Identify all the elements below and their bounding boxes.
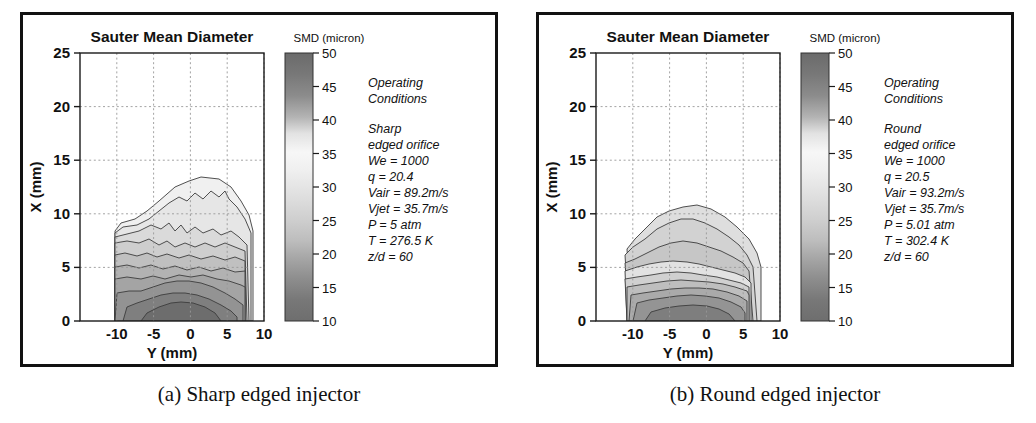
oc-line-7-a: T = 276.5 K <box>368 234 434 248</box>
colorbar-a <box>285 53 313 321</box>
oc-line-5-b: Vjet = 35.7m/s <box>884 202 964 216</box>
oc-line-8-a: z/d = 60 <box>367 250 413 264</box>
operating-conditions-a: Operating Conditions Sharp edged orifice… <box>367 76 448 264</box>
axis-ticks-b <box>590 53 596 321</box>
y-axis-label-b: X (mm) <box>543 162 560 213</box>
x-tick-labels-a: -10 -5 0 5 10 <box>106 325 272 342</box>
x-axis-label-a: Y (mm) <box>147 344 198 361</box>
oc-line-4-b: Vair = 93.2m/s <box>884 186 964 200</box>
y-axis-label-a: X (mm) <box>27 162 44 213</box>
svg-text:25: 25 <box>53 44 70 61</box>
oc-line-2-a: We = 1000 <box>368 154 429 168</box>
svg-text:10: 10 <box>53 205 70 222</box>
svg-text:10: 10 <box>256 325 273 342</box>
svg-text:15: 15 <box>53 151 70 168</box>
svg-text:10: 10 <box>772 325 789 342</box>
oc-line-1-b: edged orifice <box>884 138 956 152</box>
svg-text:50: 50 <box>322 46 336 61</box>
svg-text:20: 20 <box>569 98 586 115</box>
oc-line-1-a: edged orifice <box>368 138 440 152</box>
svg-text:-10: -10 <box>106 325 128 342</box>
panel-round-edged-injector: Sauter Mean Diameter <box>536 12 1014 367</box>
y-tick-labels-a: 0 5 10 15 20 25 <box>53 44 70 329</box>
svg-text:5: 5 <box>578 258 586 275</box>
oc-line-4-a: Vair = 89.2m/s <box>368 186 448 200</box>
svg-text:10: 10 <box>322 314 336 329</box>
svg-text:45: 45 <box>322 80 336 95</box>
contour-bands-b <box>625 205 761 321</box>
oc-line-0-a: Sharp <box>368 122 401 136</box>
plot-title-a: Sauter Mean Diameter <box>91 28 254 45</box>
contour-plot-b: Sauter Mean Diameter <box>539 15 1011 364</box>
oc-line-7-b: T = 302.4 K <box>884 234 950 248</box>
svg-text:40: 40 <box>838 113 852 128</box>
svg-text:20: 20 <box>838 247 852 262</box>
contour-bands-a <box>115 177 253 321</box>
caption-panel-a: (a) Sharp edged injector <box>20 372 498 420</box>
svg-text:-10: -10 <box>622 325 644 342</box>
oc-heading-2-b: Conditions <box>884 92 943 106</box>
svg-text:-5: -5 <box>663 325 676 342</box>
svg-text:35: 35 <box>322 147 336 162</box>
axis-ticks-a <box>74 53 80 321</box>
y-tick-labels-b: 0 5 10 15 20 25 <box>569 44 586 329</box>
oc-line-8-b: z/d = 60 <box>883 250 929 264</box>
svg-text:5: 5 <box>223 325 231 342</box>
colorbar-title-a: SMD (micron) <box>294 32 365 44</box>
plot-title-b: Sauter Mean Diameter <box>607 28 770 45</box>
colorbar-tick-labels-b: 10 15 20 25 30 35 40 45 50 <box>838 46 852 329</box>
svg-text:30: 30 <box>322 180 336 195</box>
panel-sharp-edged-injector: Sauter Mean Diameter <box>20 12 498 367</box>
svg-text:10: 10 <box>838 314 852 329</box>
svg-text:0: 0 <box>578 312 586 329</box>
svg-text:25: 25 <box>569 44 586 61</box>
svg-text:0: 0 <box>702 325 710 342</box>
svg-text:40: 40 <box>322 113 336 128</box>
svg-text:15: 15 <box>569 151 586 168</box>
svg-text:10: 10 <box>569 205 586 222</box>
colorbar-b <box>801 53 829 321</box>
svg-text:25: 25 <box>838 214 852 229</box>
svg-text:15: 15 <box>322 281 336 296</box>
svg-text:50: 50 <box>838 46 852 61</box>
operating-conditions-b: Operating Conditions Round edged orifice… <box>883 76 964 264</box>
oc-line-6-a: P = 5 atm <box>368 218 421 232</box>
oc-heading-2-a: Conditions <box>368 92 427 106</box>
svg-text:0: 0 <box>186 325 194 342</box>
oc-line-6-b: P = 5.01 atm <box>884 218 955 232</box>
oc-line-0-b: Round <box>884 122 922 136</box>
contour-plot-a: Sauter Mean Diameter <box>23 15 495 364</box>
oc-line-2-b: We = 1000 <box>884 154 945 168</box>
svg-text:5: 5 <box>739 325 747 342</box>
oc-line-3-a: q = 20.4 <box>368 170 414 184</box>
caption-panel-b: (b) Round edged injector <box>536 372 1014 420</box>
oc-heading-1-a: Operating <box>368 76 423 90</box>
svg-text:45: 45 <box>838 80 852 95</box>
svg-text:5: 5 <box>62 258 70 275</box>
oc-line-3-b: q = 20.5 <box>884 170 930 184</box>
svg-text:25: 25 <box>322 214 336 229</box>
x-tick-labels-b: -10 -5 0 5 10 <box>622 325 788 342</box>
svg-text:20: 20 <box>322 247 336 262</box>
svg-text:30: 30 <box>838 180 852 195</box>
x-axis-label-b: Y (mm) <box>663 344 714 361</box>
oc-line-5-a: Vjet = 35.7m/s <box>368 202 448 216</box>
svg-text:0: 0 <box>62 312 70 329</box>
colorbar-title-b: SMD (micron) <box>810 32 881 44</box>
svg-text:15: 15 <box>838 281 852 296</box>
colorbar-tick-labels-a: 10 15 20 25 30 35 40 45 50 <box>322 46 336 329</box>
svg-text:-5: -5 <box>147 325 160 342</box>
colorbar-ticks-b <box>829 53 835 321</box>
svg-text:35: 35 <box>838 147 852 162</box>
figure-container: Sauter Mean Diameter <box>0 0 1036 423</box>
colorbar-ticks-a <box>313 53 319 321</box>
oc-heading-1-b: Operating <box>884 76 939 90</box>
svg-text:20: 20 <box>53 98 70 115</box>
